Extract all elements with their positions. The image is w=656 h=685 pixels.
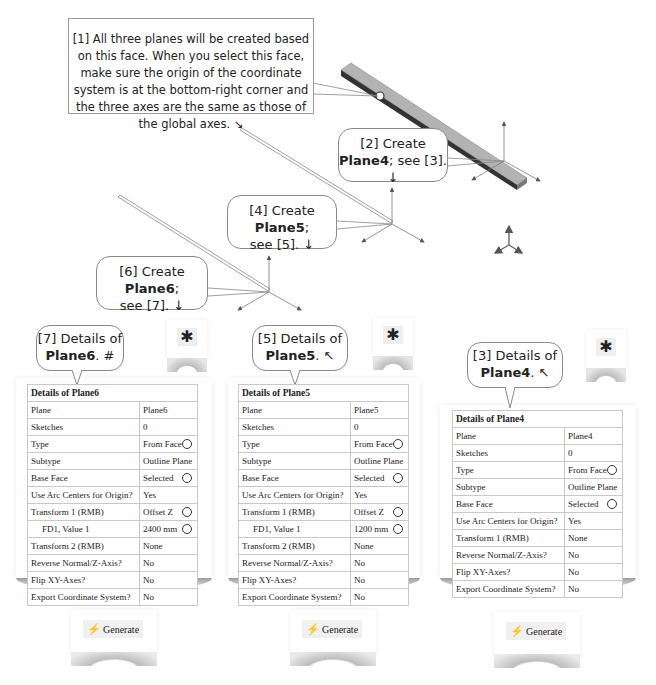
details-table-plane4: Details of Plane4 PlanePlane4 Sketches0 …: [452, 410, 623, 598]
table-row: FD1, Value 12400 mm: [28, 521, 198, 538]
generate-toolbar: ⚡Generate: [71, 610, 157, 654]
step2-callout: [2] Create Plane4; see [3]. ↓: [338, 128, 448, 182]
table-row: Transform 1 (RMB)Offset Z: [28, 504, 198, 521]
toolbar-new-plane: ✱: [167, 320, 207, 360]
generate-icon: ⚡: [306, 623, 320, 635]
generate-button[interactable]: ⚡Generate: [506, 622, 566, 640]
callout-text: Plane6. #: [37, 347, 123, 364]
table-row: Reverse Normal/Z-Axis?No: [453, 547, 623, 564]
table-row: PlanePlane4: [453, 428, 623, 445]
radio-icon[interactable]: [182, 439, 192, 449]
radio-icon[interactable]: [182, 473, 192, 483]
radio-icon[interactable]: [393, 507, 403, 517]
table-row: SubtypeOutline Plane: [28, 453, 198, 470]
callout-text: [3] Details of: [468, 347, 562, 364]
radio-icon[interactable]: [607, 499, 617, 509]
radio-icon[interactable]: [393, 439, 403, 449]
radio-icon[interactable]: [393, 524, 403, 534]
table-row: Use Arc Centers for Origin?Yes: [239, 487, 409, 504]
generate-button[interactable]: ⚡Generate: [83, 620, 143, 638]
note-1-callout: [1] All three planes will be created bas…: [68, 18, 314, 114]
callout-text: [4] Create Plane5;: [228, 202, 336, 236]
radio-icon[interactable]: [393, 473, 403, 483]
step7-callout: [7] Details of Plane6. #: [36, 325, 124, 371]
table-row: Transform 1 (RMB)None: [453, 530, 623, 547]
step3-callout: [3] Details of Plane4. ↖: [467, 342, 563, 388]
table-row: Flip XY-Axes?No: [28, 572, 198, 589]
new-plane-icon[interactable]: ✱: [177, 328, 197, 346]
generate-toolbar: ⚡Generate: [494, 612, 580, 656]
callout-text: Plane4. ↖: [468, 364, 562, 381]
callout-text: [6] Create Plane6;: [97, 263, 207, 297]
table-row: Transform 2 (RMB)None: [28, 538, 198, 555]
new-plane-icon[interactable]: ✱: [596, 338, 616, 356]
table-row: Export Coordinate System?No: [453, 581, 623, 598]
table-row: Sketches0: [453, 445, 623, 462]
table-row: Flip XY-Axes?No: [453, 564, 623, 581]
callout-text: [5] Details of: [253, 330, 347, 347]
table-row: Base FaceSelected: [453, 496, 623, 513]
radio-icon[interactable]: [182, 524, 192, 534]
table-row: PlanePlane5: [239, 402, 409, 419]
table-row: Base FaceSelected: [239, 470, 409, 487]
table-row: TypeFrom Face: [239, 436, 409, 453]
callout-text: see [5]. ↓: [228, 236, 336, 253]
table-row: SubtypeOutline Plane: [453, 479, 623, 496]
generate-icon: ⚡: [87, 623, 101, 635]
toolbar-new-plane: ✱: [586, 330, 626, 370]
callout-text: Plane5. ↖: [253, 347, 347, 364]
table-row: Sketches0: [28, 419, 198, 436]
table-row: TypeFrom Face: [28, 436, 198, 453]
generate-button[interactable]: ⚡Generate: [302, 620, 362, 638]
global-triad-icon: [495, 226, 522, 253]
table-title: Details of Plane5: [239, 385, 409, 402]
table-row: Reverse Normal/Z-Axis?No: [28, 555, 198, 572]
table-row: Use Arc Centers for Origin?Yes: [453, 513, 623, 530]
details-table-plane5: Details of Plane5 PlanePlane5 Sketches0 …: [238, 384, 409, 606]
table-row: Base FaceSelected: [28, 470, 198, 487]
callout-text: Plane4; see [3]. ↓: [339, 152, 447, 186]
details-table-plane6: Details of Plane6 PlanePlane6 Sketches0 …: [27, 384, 198, 606]
generate-icon: ⚡: [510, 625, 524, 637]
table-row: Reverse Normal/Z-Axis?No: [239, 555, 409, 572]
table-title: Details of Plane6: [28, 385, 198, 402]
table-row: Transform 2 (RMB)None: [239, 538, 409, 555]
table-row: PlanePlane6: [28, 402, 198, 419]
table-row: Sketches0: [239, 419, 409, 436]
generate-toolbar: ⚡Generate: [290, 610, 376, 654]
table-row: FD1, Value 11200 mm: [239, 521, 409, 538]
new-plane-icon[interactable]: ✱: [383, 326, 403, 344]
table-row: Export Coordinate System?No: [239, 589, 409, 606]
callout-text: [7] Details of: [37, 330, 123, 347]
table-row: Transform 1 (RMB)Offset Z: [239, 504, 409, 521]
step4-callout: [4] Create Plane5; see [5]. ↓: [227, 195, 337, 249]
table-row: Flip XY-Axes?No: [239, 572, 409, 589]
toolbar-new-plane: ✱: [373, 318, 413, 358]
plane6-axes: [238, 256, 301, 310]
table-row: Use Arc Centers for Origin?Yes: [28, 487, 198, 504]
step6-callout: [6] Create Plane6; see [7]. ↓: [96, 256, 208, 310]
table-row: Export Coordinate System?No: [28, 589, 198, 606]
plane5-axes: [362, 188, 424, 242]
radio-icon[interactable]: [607, 465, 617, 475]
table-title: Details of Plane4: [453, 411, 623, 428]
table-row: SubtypeOutline Plane: [239, 453, 409, 470]
table-row: TypeFrom Face: [453, 462, 623, 479]
callout-text: [2] Create: [339, 135, 447, 152]
callout-text: see [7]. ↓: [97, 297, 207, 314]
step5-callout: [5] Details of Plane5. ↖: [252, 325, 348, 371]
radio-icon[interactable]: [182, 507, 192, 517]
